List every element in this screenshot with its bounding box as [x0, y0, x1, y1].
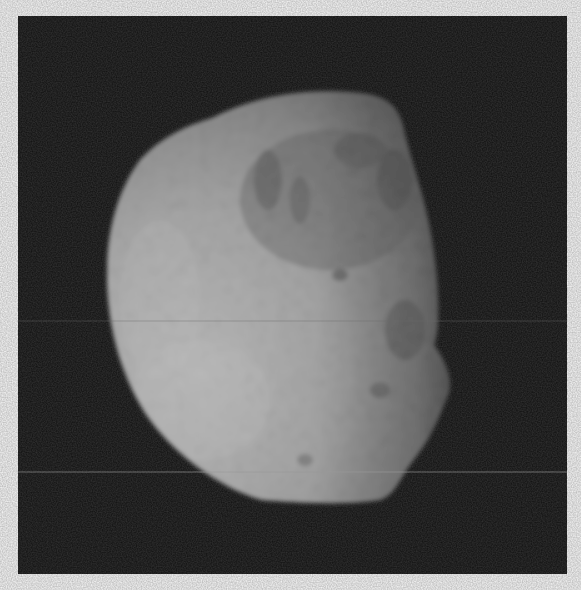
moon-photo — [0, 0, 581, 590]
